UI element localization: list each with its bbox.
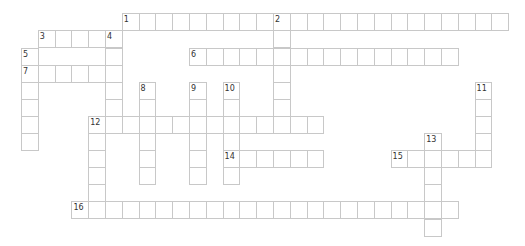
crossword-cell[interactable] bbox=[391, 201, 409, 219]
crossword-cell[interactable] bbox=[189, 116, 207, 134]
crossword-cell[interactable] bbox=[21, 116, 39, 134]
crossword-cell[interactable]: 15 bbox=[391, 150, 409, 168]
crossword-cell[interactable]: 11 bbox=[475, 82, 493, 100]
crossword-cell[interactable] bbox=[206, 116, 224, 134]
crossword-cell[interactable] bbox=[223, 116, 241, 134]
crossword-cell[interactable] bbox=[273, 99, 291, 117]
crossword-cell[interactable]: 6 bbox=[189, 48, 207, 66]
crossword-cell[interactable] bbox=[424, 150, 442, 168]
crossword-cell[interactable] bbox=[475, 116, 493, 134]
crossword-cell[interactable] bbox=[88, 65, 106, 83]
crossword-cell[interactable] bbox=[223, 99, 241, 117]
crossword-cell[interactable] bbox=[273, 82, 291, 100]
crossword-cell[interactable] bbox=[323, 48, 341, 66]
crossword-cell[interactable] bbox=[21, 133, 39, 151]
crossword-cell[interactable] bbox=[239, 48, 257, 66]
crossword-cell[interactable] bbox=[273, 30, 291, 48]
crossword-cell[interactable] bbox=[407, 13, 425, 31]
crossword-cell[interactable] bbox=[139, 133, 157, 151]
crossword-cell[interactable] bbox=[55, 65, 73, 83]
crossword-cell[interactable] bbox=[206, 201, 224, 219]
crossword-cell[interactable] bbox=[256, 13, 274, 31]
crossword-cell[interactable] bbox=[189, 133, 207, 151]
crossword-cell[interactable] bbox=[256, 116, 274, 134]
crossword-cell[interactable] bbox=[357, 201, 375, 219]
crossword-cell[interactable] bbox=[256, 150, 274, 168]
crossword-cell[interactable] bbox=[189, 201, 207, 219]
crossword-cell[interactable] bbox=[357, 13, 375, 31]
crossword-cell[interactable] bbox=[105, 82, 123, 100]
crossword-cell[interactable] bbox=[223, 167, 241, 185]
crossword-cell[interactable] bbox=[21, 82, 39, 100]
crossword-cell[interactable] bbox=[290, 48, 308, 66]
crossword-cell[interactable]: 13 bbox=[424, 133, 442, 151]
crossword-cell[interactable] bbox=[340, 13, 358, 31]
crossword-cell[interactable] bbox=[307, 150, 325, 168]
crossword-cell[interactable] bbox=[475, 150, 493, 168]
crossword-cell[interactable] bbox=[71, 30, 89, 48]
crossword-cell[interactable] bbox=[424, 13, 442, 31]
crossword-cell[interactable] bbox=[424, 219, 442, 237]
crossword-cell[interactable] bbox=[290, 13, 308, 31]
crossword-cell[interactable] bbox=[273, 116, 291, 134]
crossword-cell[interactable] bbox=[407, 201, 425, 219]
crossword-cell[interactable]: 10 bbox=[223, 82, 241, 100]
crossword-cell[interactable] bbox=[424, 48, 442, 66]
crossword-cell[interactable]: 2 bbox=[273, 13, 291, 31]
crossword-cell[interactable] bbox=[155, 13, 173, 31]
crossword-cell[interactable] bbox=[424, 184, 442, 202]
crossword-cell[interactable] bbox=[172, 116, 190, 134]
crossword-cell[interactable] bbox=[374, 13, 392, 31]
crossword-cell[interactable] bbox=[139, 150, 157, 168]
crossword-cell[interactable] bbox=[223, 13, 241, 31]
crossword-cell[interactable] bbox=[239, 150, 257, 168]
crossword-cell[interactable] bbox=[239, 201, 257, 219]
crossword-cell[interactable] bbox=[307, 48, 325, 66]
crossword-cell[interactable] bbox=[273, 48, 291, 66]
crossword-cell[interactable] bbox=[155, 116, 173, 134]
crossword-cell[interactable] bbox=[223, 133, 241, 151]
crossword-cell[interactable]: 14 bbox=[223, 150, 241, 168]
crossword-cell[interactable] bbox=[239, 116, 257, 134]
crossword-cell[interactable] bbox=[424, 167, 442, 185]
crossword-cell[interactable] bbox=[475, 133, 493, 151]
crossword-cell[interactable] bbox=[88, 201, 106, 219]
crossword-cell[interactable] bbox=[172, 13, 190, 31]
crossword-cell[interactable] bbox=[88, 167, 106, 185]
crossword-cell[interactable] bbox=[407, 48, 425, 66]
crossword-cell[interactable] bbox=[206, 48, 224, 66]
crossword-cell[interactable] bbox=[139, 99, 157, 117]
crossword-cell[interactable] bbox=[290, 116, 308, 134]
crossword-cell[interactable] bbox=[189, 167, 207, 185]
crossword-cell[interactable] bbox=[491, 13, 509, 31]
crossword-cell[interactable] bbox=[139, 201, 157, 219]
crossword-cell[interactable] bbox=[105, 99, 123, 117]
crossword-cell[interactable] bbox=[374, 201, 392, 219]
crossword-cell[interactable] bbox=[105, 48, 123, 66]
crossword-cell[interactable] bbox=[273, 201, 291, 219]
crossword-cell[interactable] bbox=[239, 13, 257, 31]
crossword-cell[interactable] bbox=[139, 116, 157, 134]
crossword-cell[interactable] bbox=[441, 13, 459, 31]
crossword-cell[interactable] bbox=[407, 150, 425, 168]
crossword-cell[interactable] bbox=[256, 48, 274, 66]
crossword-cell[interactable]: 8 bbox=[139, 82, 157, 100]
crossword-cell[interactable]: 5 bbox=[21, 48, 39, 66]
crossword-cell[interactable] bbox=[55, 30, 73, 48]
crossword-cell[interactable]: 4 bbox=[105, 30, 123, 48]
crossword-cell[interactable] bbox=[307, 13, 325, 31]
crossword-cell[interactable] bbox=[458, 150, 476, 168]
crossword-cell[interactable] bbox=[340, 201, 358, 219]
crossword-cell[interactable] bbox=[122, 116, 140, 134]
crossword-cell[interactable] bbox=[357, 48, 375, 66]
crossword-cell[interactable] bbox=[21, 99, 39, 117]
crossword-cell[interactable] bbox=[441, 201, 459, 219]
crossword-cell[interactable] bbox=[424, 201, 442, 219]
crossword-cell[interactable] bbox=[155, 201, 173, 219]
crossword-cell[interactable] bbox=[105, 201, 123, 219]
crossword-cell[interactable] bbox=[139, 13, 157, 31]
crossword-cell[interactable] bbox=[458, 13, 476, 31]
crossword-cell[interactable]: 9 bbox=[189, 82, 207, 100]
crossword-cell[interactable]: 12 bbox=[88, 116, 106, 134]
crossword-cell[interactable] bbox=[273, 65, 291, 83]
